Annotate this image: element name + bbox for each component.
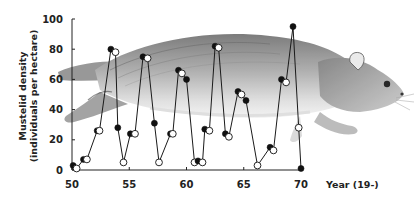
data-point-open [73, 165, 80, 172]
chart: 020406080100 5055606570 Year (19-) Muste… [0, 0, 418, 200]
data-point-open [238, 91, 245, 98]
x-tick-label: 65 [237, 179, 251, 190]
data-point-open [206, 127, 213, 134]
y-axis-title-line-2: (individuals per hectare) [28, 30, 39, 163]
y-axis-title-line-1: Mustelid density [17, 51, 28, 141]
x-tick-label: 50 [65, 179, 79, 190]
data-point-open [120, 159, 127, 166]
data-point-filled [298, 166, 304, 172]
x-tick-label: 70 [294, 179, 308, 190]
data-point-open [156, 159, 163, 166]
y-tick-label: 0 [56, 165, 63, 176]
data-point-open [179, 70, 186, 77]
x-tick-label: 55 [122, 179, 136, 190]
x-tick-label: 60 [180, 179, 194, 190]
data-point-filled [115, 125, 121, 131]
data-point-open [215, 44, 222, 51]
data-point-open [270, 147, 277, 154]
data-point-open [254, 162, 261, 169]
data-point-open [132, 130, 139, 137]
data-point-open [144, 55, 151, 62]
y-ticks: 020406080100 [42, 14, 75, 176]
y-axis-title: Mustelid density (individuals per hectar… [17, 30, 39, 163]
y-tick-label: 80 [49, 44, 63, 55]
data-point-open [283, 79, 290, 86]
x-axis-title: Year (19-) [325, 179, 379, 190]
data-point-open [226, 133, 233, 140]
data-point-filled [151, 120, 157, 126]
data-point-open [96, 127, 103, 134]
y-tick-label: 60 [49, 74, 63, 85]
data-point-open [295, 124, 302, 131]
data-point-open [84, 156, 91, 163]
y-tick-label: 100 [42, 14, 63, 25]
data-point-filled [290, 24, 296, 30]
y-tick-label: 20 [49, 134, 63, 145]
data-point-open [199, 159, 206, 166]
data-point-filled [243, 98, 249, 104]
data-point-filled [184, 76, 190, 82]
y-tick-label: 40 [49, 104, 63, 115]
data-point-open [112, 49, 119, 56]
data-point-open [169, 130, 176, 137]
